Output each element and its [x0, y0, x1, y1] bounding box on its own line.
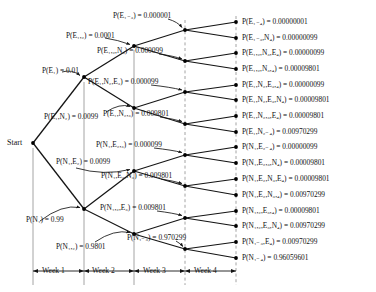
branch-label-E1-2: P(E₁,₂) = 0.0001: [66, 32, 115, 39]
branch-label-N1-2-E3: P(N₁,₂,E₃) = 0.009801: [100, 204, 166, 211]
start-node-label: Start: [7, 138, 22, 147]
branch-label-N1-E2: P(N₁,E₂) = 0.0099: [56, 158, 110, 165]
terminal-label-15: P(N₁₋₃,E₄) = 0.00970299: [242, 238, 317, 245]
terminal-label-13: P(N₁,₂,E₃,₄) = 0.00009801: [242, 207, 320, 214]
branch-label-N1-E2-3: P(N₁,E₂,₃) = 0.000099: [96, 141, 162, 148]
terminal-label-16: P(N₁₋₄) = 0.96059601: [242, 254, 309, 261]
terminal-label-8: P(E₁,N₂₋₄) = 0.00970299: [242, 128, 317, 135]
node-start: [31, 141, 35, 145]
branch-label-E1-3: P(E₁₋₃) = 0.000001: [113, 12, 171, 19]
branch-label-E1: P(E₁) = 0.01: [42, 67, 79, 74]
terminal-label-2: P(E₁₋₃,N₄) = 0.00000099: [242, 34, 317, 41]
branch-label-N1: P(N₁) = 0.99: [26, 216, 64, 223]
week-label-4: Week 4: [194, 266, 217, 275]
branch-label-N1-2: P(N₁,₂) = 0.9801: [56, 243, 106, 250]
terminal-label-1: P(E₁₋₄) = 0.00000001: [242, 18, 308, 25]
terminal-label-11: P(N₁,E₂,N₃,E₄) = 0.00009801: [242, 175, 330, 182]
branch-label-E1-2-N3: P(E₁,₂,N₃) = 0.000099: [97, 47, 163, 54]
terminal-label-5: P(E₁,N₂,E₃,₄) = 0.00000099: [242, 81, 324, 88]
branch-label-E1-N2: P(E₁,N₂) = 0.0099: [44, 113, 98, 120]
terminal-label-7: P(E₁,N₂,₃,E₄) = 0.00009801: [242, 112, 324, 119]
terminal-label-4: P(E₁,₂,N₃,₄) = 0.00009801: [242, 65, 320, 72]
branch-label-E1-N2-3: P(E₁,N₂,₃) = 0.009801: [103, 110, 169, 117]
branch-label-E1-N2-E3: P(E₁,N₂,E₃) = 0.000099: [88, 78, 158, 85]
week-label-1: Week 1: [42, 266, 65, 275]
terminal-label-6: P(E₁,N₂,E₃,N₄) = 0.00009801: [242, 96, 330, 103]
week-label-3: Week 3: [143, 266, 166, 275]
terminal-label-10: P(N₁,E₂,₃,N₄) = 0.00009801: [242, 159, 325, 166]
terminal-label-12: P(N₁,E₂,N₃,₄) = 0.00970299: [242, 191, 325, 198]
terminal-label-14: P(N₁,₂,E₃,N₄) = 0.00970299: [242, 222, 325, 229]
terminal-label-3: P(E₁,₂,N₃,E₄) = 0.00000099: [242, 49, 324, 56]
week-label-2: Week 2: [92, 266, 115, 275]
terminal-label-9: P(N₁,E₂₋₄) = 0.00000099: [242, 143, 317, 150]
branch-label-N1-3: P(N₁₋₃) = 0.970299: [127, 234, 186, 241]
branch-label-N1-E2-N3: P(N₁,E₂,N₃) = 0.009801: [101, 172, 172, 179]
probability-tree-figure: Start P(E₁) = 0.01 P(N₁) = 0.99 P(E₁,₂) …: [0, 0, 376, 292]
